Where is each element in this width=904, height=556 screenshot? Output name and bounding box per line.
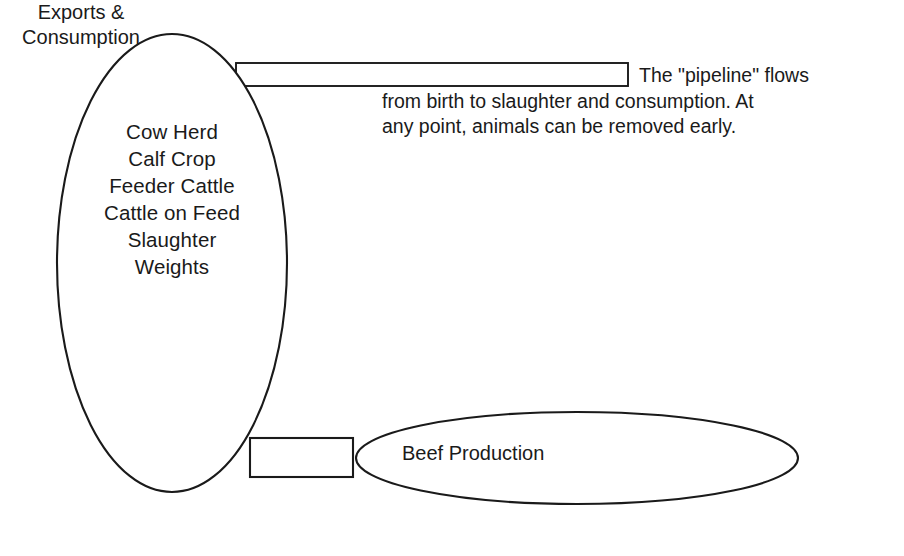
stage-item-weights: Weights bbox=[56, 253, 288, 280]
stage-item-slaughter: Slaughter bbox=[56, 226, 288, 253]
stage-list: Cow Herd Calf Crop Feeder Cattle Cattle … bbox=[56, 118, 288, 280]
caption-line-2: from birth to slaughter and consumption.… bbox=[382, 89, 894, 115]
stage-item-cattle-on-feed: Cattle on Feed bbox=[56, 199, 288, 226]
beef-production-label: Beef Production bbox=[402, 443, 544, 463]
caption-line-3: any point, animals can be removed early. bbox=[382, 114, 894, 140]
exports-consumption-line-2: Consumption bbox=[0, 25, 162, 50]
diagram-text-layer: Cow Herd Calf Crop Feeder Cattle Cattle … bbox=[0, 0, 904, 556]
stage-item-feeder-cattle: Feeder Cattle bbox=[56, 172, 288, 199]
stage-item-cow-herd: Cow Herd bbox=[56, 118, 288, 145]
exports-consumption-label: Exports & Consumption bbox=[0, 0, 162, 50]
caption-block: The "pipeline" flows from birth to slaug… bbox=[382, 63, 894, 140]
stage-item-calf-crop: Calf Crop bbox=[56, 145, 288, 172]
diagram-canvas: Cow Herd Calf Crop Feeder Cattle Cattle … bbox=[0, 0, 904, 556]
caption-line-1: The "pipeline" flows bbox=[382, 63, 894, 89]
exports-consumption-line-1: Exports & bbox=[0, 0, 162, 25]
